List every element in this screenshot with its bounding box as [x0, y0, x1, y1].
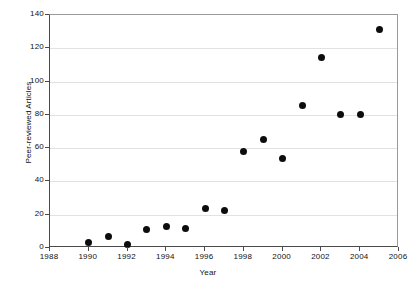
y-tick-label: 80 — [0, 110, 44, 118]
x-tick-mark — [320, 247, 321, 251]
data-point — [182, 225, 189, 232]
x-tick-label: 2002 — [300, 252, 340, 261]
plot-area — [49, 14, 398, 247]
data-point — [143, 226, 150, 233]
y-tick-label: 100 — [0, 77, 44, 85]
y-axis-title: Peer-reviewed Articles — [24, 43, 33, 203]
y-tick-label: 40 — [0, 176, 44, 184]
scatter-chart-figure: 020406080100120140 Peer-reviewed Article… — [0, 0, 416, 288]
data-point — [376, 26, 383, 33]
gridline — [50, 148, 397, 149]
x-tick-mark — [49, 247, 50, 251]
x-tick-mark — [359, 247, 360, 251]
x-tick-mark — [204, 247, 205, 251]
y-tick-label: 60 — [0, 143, 44, 151]
x-axis-tick-labels: 1988199019921994199619982000200220042006 — [0, 252, 416, 266]
data-point — [260, 136, 267, 143]
x-tick-mark — [282, 247, 283, 251]
x-tick-mark — [127, 247, 128, 251]
data-point — [124, 241, 131, 248]
x-tick-label: 1988 — [29, 252, 69, 261]
x-tick-label: 1992 — [107, 252, 147, 261]
gridline — [50, 181, 397, 182]
y-tick-label: 120 — [0, 43, 44, 51]
data-point — [163, 223, 170, 230]
data-point — [105, 233, 112, 240]
x-tick-mark — [88, 247, 89, 251]
x-tick-label: 1990 — [68, 252, 108, 261]
gridline — [50, 82, 397, 83]
gridline — [50, 48, 397, 49]
x-tick-mark — [243, 247, 244, 251]
data-point — [85, 239, 92, 246]
x-tick-label: 1996 — [184, 252, 224, 261]
data-point — [357, 111, 364, 118]
data-point — [337, 111, 344, 118]
x-tick-label: 1994 — [145, 252, 185, 261]
data-point — [299, 102, 306, 109]
x-tick-label: 2006 — [378, 252, 416, 261]
data-point — [279, 155, 286, 162]
y-tick-label: 140 — [0, 10, 44, 18]
x-tick-mark — [398, 247, 399, 251]
y-tick-label: 0 — [0, 243, 44, 251]
x-tick-label: 1998 — [223, 252, 263, 261]
x-axis-title: Year — [0, 268, 416, 277]
y-tick-label: 20 — [0, 210, 44, 218]
data-point — [221, 207, 228, 214]
data-point — [240, 148, 247, 155]
gridline — [50, 115, 397, 116]
x-tick-mark — [165, 247, 166, 251]
data-point — [318, 54, 325, 61]
gridline — [50, 215, 397, 216]
x-tick-label: 2000 — [262, 252, 302, 261]
data-point — [202, 205, 209, 212]
x-tick-label: 2004 — [339, 252, 379, 261]
